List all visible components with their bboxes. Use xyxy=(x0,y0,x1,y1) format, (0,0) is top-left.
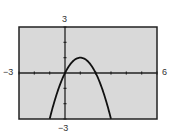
graph-window xyxy=(0,0,177,137)
